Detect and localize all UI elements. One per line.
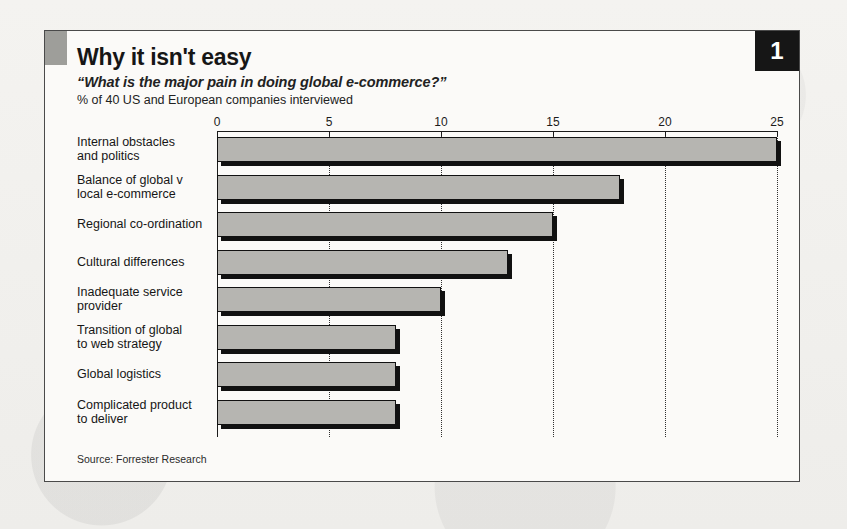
bar-row	[217, 175, 777, 200]
chart-subtitle: “What is the major pain in doing global …	[77, 74, 446, 91]
chart-number-badge: 1	[755, 31, 799, 71]
bar	[217, 175, 620, 200]
bar	[217, 400, 396, 425]
category-label: Transition of global to web strategy	[77, 323, 217, 352]
chart-unit-line: % of 40 US and European companies interv…	[77, 93, 446, 107]
bar-row	[217, 325, 777, 350]
bar	[217, 137, 777, 162]
tick-label-25: 25	[770, 115, 783, 129]
bar-row	[217, 287, 777, 312]
page-title: Why it isn't easy	[77, 45, 446, 71]
tick-25	[777, 131, 778, 136]
category-label: Cultural differences	[77, 255, 217, 269]
plot-area: 0510152025	[217, 131, 777, 431]
accent-square	[45, 31, 67, 65]
bar-group	[217, 131, 777, 431]
category-label: Regional co-ordination	[77, 217, 217, 231]
bar	[217, 325, 396, 350]
bar-row	[217, 137, 777, 162]
category-label: Complicated product to deliver	[77, 398, 217, 427]
bar-row	[217, 212, 777, 237]
bar	[217, 212, 553, 237]
bar-row	[217, 400, 777, 425]
bar	[217, 362, 396, 387]
bar	[217, 287, 441, 312]
tick-label-20: 20	[658, 115, 671, 129]
chart-card: 1 Why it isn't easy “What is the major p…	[44, 30, 800, 482]
chart-headings: Why it isn't easy “What is the major pai…	[77, 45, 446, 108]
bar	[217, 250, 508, 275]
source-note: Source: Forrester Research	[77, 453, 207, 465]
tick-label-15: 15	[546, 115, 559, 129]
bar-row	[217, 362, 777, 387]
category-label-list: Internal obstacles and politicsBalance o…	[77, 131, 217, 431]
chart-number-badge-label: 1	[770, 37, 783, 65]
gridline-25	[777, 131, 778, 437]
tick-label-0: 0	[214, 115, 221, 129]
category-label: Balance of global v local e-commerce	[77, 173, 217, 202]
category-label: Global logistics	[77, 367, 217, 381]
tick-label-10: 10	[434, 115, 447, 129]
category-label: Internal obstacles and politics	[77, 135, 217, 164]
bar-row	[217, 250, 777, 275]
category-label: Inadequate service provider	[77, 285, 217, 314]
tick-label-5: 5	[326, 115, 333, 129]
